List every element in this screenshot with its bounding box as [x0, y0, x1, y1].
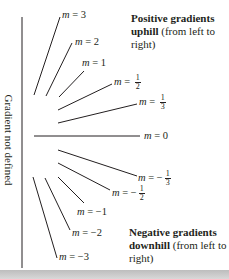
label-m-neg3: m = −3 [59, 252, 89, 263]
label-m-third: m = 13 [139, 94, 166, 111]
label-var: m [77, 206, 85, 217]
fraction-denominator: 3 [160, 103, 166, 111]
label-sign: − [157, 172, 163, 183]
label-m0: m = 0 [144, 131, 168, 142]
bottom-border-bar [0, 270, 229, 279]
line-m-neg3 [33, 177, 57, 258]
negative-gradients-note: Negative gradients downhill (from left t… [129, 226, 227, 265]
label-var: m [144, 130, 152, 141]
label-value: −3 [78, 251, 89, 262]
label-value: 0 [163, 130, 168, 141]
positive-gradients-note: Positive gradients uphill (from left to … [131, 12, 227, 51]
label-value: 2 [94, 36, 99, 47]
line-m-neg-half [58, 163, 110, 190]
fraction-denominator: 2 [135, 83, 141, 91]
label-var: m [59, 251, 67, 262]
label-m3: m = 3 [62, 10, 86, 21]
label-var: m [75, 36, 83, 47]
label-eq: = [83, 36, 94, 47]
label-eq: = [146, 172, 157, 183]
label-var: m [72, 227, 80, 238]
line-m1 [59, 71, 84, 97]
label-value: −1 [96, 206, 107, 217]
label-eq: = [70, 9, 81, 20]
label-m-neg2: m = −2 [72, 228, 102, 239]
label-var: m [82, 57, 90, 68]
label-value: −2 [91, 227, 102, 238]
line-m-neg1 [58, 177, 84, 203]
line-m-half [58, 84, 112, 110]
label-eq: = [90, 57, 101, 68]
fraction: 12 [135, 74, 141, 91]
label-value: 1 [101, 57, 106, 68]
label-eq: = [67, 251, 78, 262]
line-m-neg-third [58, 150, 137, 176]
label-eq: = [120, 187, 131, 198]
gradient-not-defined-label: Gradient not defined [3, 94, 15, 185]
label-var: m [114, 76, 122, 87]
line-m3 [34, 17, 60, 95]
label-eq: = [152, 130, 163, 141]
gradient-diagram: Gradient not defined m = 3 m = 2 m = 1 m… [0, 0, 229, 279]
label-var: m [112, 187, 120, 198]
line-m-third [58, 104, 137, 123]
label-eq: = [147, 96, 158, 107]
label-value: 3 [81, 9, 86, 20]
label-var: m [62, 9, 70, 20]
fraction: 13 [160, 94, 166, 111]
label-eq: = [122, 76, 133, 87]
label-m-half: m = 12 [114, 74, 141, 91]
label-var: m [138, 172, 146, 183]
fraction-denominator: 2 [139, 194, 145, 202]
label-eq: = [85, 206, 96, 217]
label-sign: − [131, 187, 137, 198]
label-var: m [139, 96, 147, 107]
label-m-neg-half: m = −12 [112, 185, 145, 202]
label-m-neg1: m = −1 [77, 207, 107, 218]
label-eq: = [80, 227, 91, 238]
label-m1: m = 1 [82, 58, 106, 69]
fraction: 12 [139, 185, 145, 202]
fraction-denominator: 3 [165, 179, 171, 187]
label-m2: m = 2 [75, 37, 99, 48]
fraction: 13 [165, 170, 171, 187]
